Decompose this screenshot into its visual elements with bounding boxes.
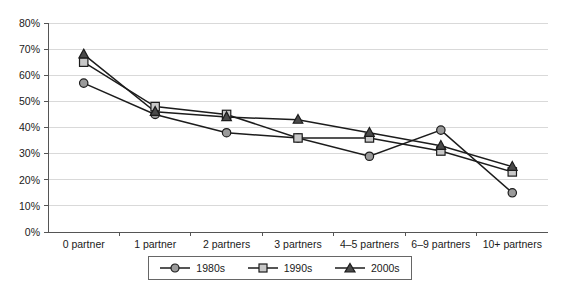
legend-label-1980s: 1980s bbox=[196, 262, 225, 274]
y-tick-label: 0% bbox=[25, 226, 40, 238]
legend-swatch-circle-icon bbox=[160, 262, 190, 274]
y-tick-label: 10% bbox=[19, 200, 40, 212]
y-tick-label: 80% bbox=[19, 17, 40, 29]
y-tick-label: 20% bbox=[19, 174, 40, 186]
data-point-1980s-4 bbox=[365, 152, 373, 160]
x-tick-label: 3 partners bbox=[274, 238, 321, 250]
series-marker-group bbox=[79, 49, 517, 197]
x-tick-label: 4–5 partners bbox=[340, 238, 399, 250]
legend-item-2000s: 2000s bbox=[335, 262, 400, 274]
data-point-1990s-0 bbox=[80, 58, 88, 66]
data-point-1980s-6 bbox=[508, 189, 516, 197]
data-point-1980s-2 bbox=[222, 129, 230, 137]
y-tick-label: 50% bbox=[19, 95, 40, 107]
legend-item-1990s: 1990s bbox=[248, 262, 313, 274]
chart-legend: 1980s 1990s 2000s bbox=[148, 256, 412, 280]
legend-swatch-triangle-icon bbox=[335, 262, 365, 274]
x-tick-label: 6–9 partners bbox=[411, 238, 470, 250]
x-tick-label: 1 partner bbox=[134, 238, 177, 250]
y-tick-label: 30% bbox=[19, 147, 40, 159]
y-tick-label: 40% bbox=[19, 121, 40, 133]
tick-group bbox=[44, 23, 477, 236]
legend-item-1980s: 1980s bbox=[160, 262, 225, 274]
data-point-1980s-5 bbox=[437, 126, 445, 134]
legend-label-2000s: 2000s bbox=[371, 262, 400, 274]
y-tick-label: 60% bbox=[19, 69, 40, 81]
y-tick-label-group: 0%10%20%30%40%50%60%70%80% bbox=[19, 17, 40, 238]
x-tick-label: 2 partners bbox=[203, 238, 250, 250]
data-point-1980s-0 bbox=[80, 79, 88, 87]
data-point-1990s-3 bbox=[294, 134, 302, 142]
y-tick-label: 70% bbox=[19, 43, 40, 55]
x-tick-label: 10+ partners bbox=[483, 238, 542, 250]
data-point-2000s-0 bbox=[79, 49, 89, 58]
x-tick-label-group: 0 partner1 partner2 partners3 partners4–… bbox=[63, 238, 542, 250]
x-tick-label: 0 partner bbox=[63, 238, 106, 250]
figure-container: 0%10%20%30%40%50%60%70%80% 0 partner1 pa… bbox=[0, 0, 562, 303]
legend-label-1990s: 1990s bbox=[284, 262, 313, 274]
legend-swatch-square-icon bbox=[248, 262, 278, 274]
